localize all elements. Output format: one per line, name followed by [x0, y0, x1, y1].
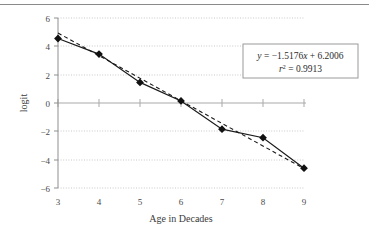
xtick-label-9: 9: [302, 197, 307, 207]
xtick-label-5: 5: [138, 197, 143, 207]
x-axis-title: Age in Decades: [149, 213, 212, 224]
ytick-label-6: 6: [46, 14, 51, 24]
ytick-label-neg2: −2: [40, 127, 50, 137]
y-tick-labels: 6 4 2 0 −2 −4 −6: [40, 14, 50, 194]
ytick-label-0: 0: [46, 99, 51, 109]
xtick-label-6: 6: [179, 197, 184, 207]
data-point-x5: [136, 79, 144, 87]
chart-canvas: 6 4 2 0 −2 −4 −6 3 4 5 6 7 8 9 Age in De…: [0, 0, 369, 238]
y-axis-title: logit: [18, 94, 29, 113]
ytick-label-neg6: −6: [40, 184, 50, 194]
x-tick-labels: 3 4 5 6 7 8 9: [56, 197, 307, 207]
xtick-label-4: 4: [97, 197, 102, 207]
xtick-label-3: 3: [56, 197, 61, 207]
regression-equation-box: y = −1.5176x + 6.2006 r2 = 0.9913: [243, 44, 358, 78]
data-point-x7: [218, 125, 226, 133]
ytick-label-neg4: −4: [40, 156, 50, 166]
figure-container: 6 4 2 0 −2 −4 −6 3 4 5 6 7 8 9 Age in De…: [0, 0, 369, 238]
equation-tail: + 6.2006: [307, 51, 343, 61]
ytick-label-2: 2: [46, 71, 51, 81]
r-squared-value: = 0.9913: [286, 64, 322, 74]
data-point-x3: [54, 35, 62, 43]
xtick-label-7: 7: [220, 197, 225, 207]
equation-line: y = −1.5176x + 6.2006: [256, 51, 344, 61]
equation-body: = −1.5176: [262, 51, 304, 61]
ytick-label-4: 4: [46, 42, 51, 52]
data-point-x6: [177, 97, 185, 105]
y-axis: [54, 18, 58, 188]
xtick-label-8: 8: [261, 197, 266, 207]
r-squared-line: r2 = 0.9913: [279, 63, 322, 74]
